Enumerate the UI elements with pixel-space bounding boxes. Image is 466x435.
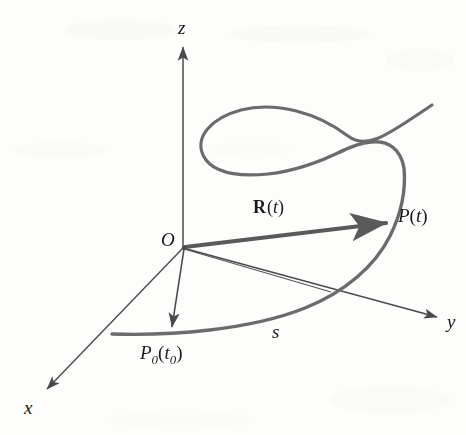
space-curve-loop xyxy=(201,105,432,175)
figure-canvas xyxy=(0,0,466,435)
position-vector-symbol: R xyxy=(253,197,266,217)
paper-texture xyxy=(15,20,455,430)
vector-calculus-figure: z y x O P(t) P0(t0) R(t) s xyxy=(0,0,466,435)
point-p-of-t-symbol: P xyxy=(398,205,410,226)
point-p-zero-symbol: P xyxy=(140,342,152,363)
position-vector-arrow xyxy=(185,223,386,247)
point-p-of-t-label: P(t) xyxy=(398,206,428,225)
position-vector-paren-close: ) xyxy=(278,197,284,217)
y-axis-label: y xyxy=(447,312,455,331)
arc-length-label: s xyxy=(272,322,279,341)
origin-label: O xyxy=(161,230,175,249)
point-p-zero-paren-close: ) xyxy=(176,342,182,363)
point-p-of-t-paren-close: ) xyxy=(421,205,427,226)
point-p-zero-label: P0(t0) xyxy=(140,343,182,367)
z-axis-label: z xyxy=(178,18,185,37)
position-vector-label: R(t) xyxy=(253,198,284,216)
p-zero-arrow xyxy=(172,249,184,327)
x-axis-label: x xyxy=(24,398,32,417)
projection-line xyxy=(184,249,331,292)
x-axis-line xyxy=(47,248,183,389)
origin-dot xyxy=(182,246,186,250)
